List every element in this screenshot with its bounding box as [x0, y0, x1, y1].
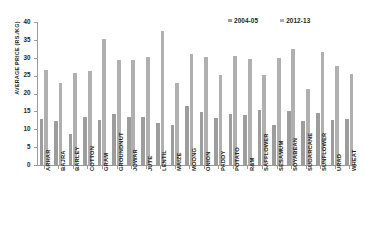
bar-group: [243, 22, 251, 165]
legend-swatch-2012-13: [280, 19, 284, 23]
bar-group: [127, 22, 135, 165]
bar: [345, 119, 349, 165]
bar: [316, 113, 320, 165]
x-tick-label: POTATO: [235, 147, 241, 171]
bar: [272, 125, 276, 165]
bar: [40, 119, 44, 165]
legend-item[interactable]: 2004-05: [228, 18, 258, 24]
legend-label: 2012-13: [286, 18, 310, 24]
x-tick-label: GROUNDNUT: [119, 132, 125, 171]
x-tick-label: LENTIL: [162, 150, 168, 171]
x-tick-label: COTTON: [90, 146, 96, 171]
x-tick-label: SAFFLOWER: [264, 133, 270, 171]
bar: [102, 39, 106, 165]
bar: [146, 57, 150, 165]
legend-swatch-2004-05: [228, 19, 232, 23]
x-tick-label: MAIZE: [177, 152, 183, 171]
bar-group: [156, 22, 164, 165]
y-tick-label: 0: [15, 162, 31, 168]
bar: [185, 106, 189, 165]
x-tick-label: SOYABEAN: [293, 137, 299, 170]
x-tick-label: R&M: [250, 157, 256, 171]
bar-group: [171, 22, 179, 165]
x-tick-label: GRAM: [104, 152, 110, 170]
bar-group: [83, 22, 91, 165]
bar-group: [345, 22, 353, 165]
x-tick-label: JUTE: [148, 155, 154, 170]
bar: [156, 123, 160, 165]
y-tick-label: 15: [15, 108, 31, 114]
bar: [204, 57, 208, 165]
bar: [214, 118, 218, 165]
bar: [171, 125, 175, 165]
y-tick-label: 20: [15, 90, 31, 96]
bar-group: [40, 22, 48, 165]
legend-item[interactable]: 2012-13: [280, 18, 310, 24]
bar: [301, 121, 305, 165]
bar: [331, 120, 335, 165]
bar: [287, 111, 291, 165]
legend-label: 2004-05: [234, 18, 258, 24]
y-tick-label: 40: [15, 19, 31, 25]
bar-group: [229, 22, 237, 165]
bar: [54, 121, 58, 165]
bar: [335, 66, 339, 165]
bar-group: [200, 22, 208, 165]
bar-group: [331, 22, 339, 165]
x-tick-label: SUGARCANE: [308, 132, 314, 170]
bar-group: [98, 22, 106, 165]
bar-group: [69, 22, 77, 165]
bar: [98, 120, 102, 165]
bar: [83, 117, 87, 165]
bar-group: [141, 22, 149, 165]
x-tick-label: BAJRA: [61, 150, 67, 170]
bar: [161, 31, 165, 165]
x-tick-label: BARLEY: [75, 146, 81, 170]
bar: [141, 117, 145, 165]
x-tick-label: MOONG: [192, 147, 198, 170]
bar-group: [185, 22, 193, 165]
x-tick-label: JOWAR: [133, 149, 139, 171]
bar-group: [54, 22, 62, 165]
bar: [112, 114, 116, 165]
y-tick-label: 10: [15, 126, 31, 132]
x-tick-label: SESAMUM: [279, 140, 285, 170]
x-tick-label: ONION: [206, 151, 212, 171]
bar: [69, 134, 73, 165]
chart-legend: 2004-052012-13: [228, 18, 310, 24]
x-tick-label: WHEAT: [352, 149, 358, 170]
bar: [258, 110, 262, 165]
x-tick-label: ARHAR: [46, 149, 52, 170]
y-tick-label: 30: [15, 55, 31, 61]
x-tick-label: URAD: [337, 153, 343, 170]
bar: [127, 117, 131, 165]
y-tick-label: 35: [15, 37, 31, 43]
x-tick-label: SUNFLOWER: [322, 132, 328, 170]
bar: [229, 114, 233, 165]
bar: [200, 112, 204, 165]
bar-chart: AVERAGE PRICE (RS./KG) 0510152025303540 …: [0, 0, 365, 236]
bar: [248, 59, 252, 165]
bar-group: [214, 22, 222, 165]
bar: [243, 115, 247, 165]
y-tick-label: 25: [15, 72, 31, 78]
x-tick-label: PADDY: [221, 150, 227, 170]
y-tick-label: 5: [15, 144, 31, 150]
